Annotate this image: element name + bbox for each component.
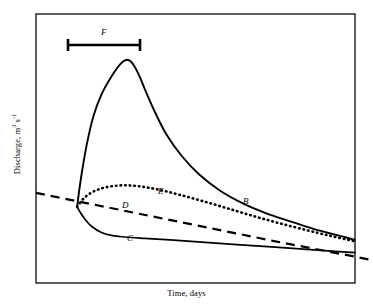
curve-label-b: B xyxy=(243,196,249,206)
duration-bar-label: F xyxy=(101,27,107,37)
y-axis-exponent-3: 3 xyxy=(11,125,17,128)
hydrograph-figure: Discharge, m3 s-1 Time, days F B C D E xyxy=(0,0,373,308)
y-axis-label-mid: s xyxy=(12,119,22,125)
y-axis-label: Discharge, m3 s-1 xyxy=(12,94,22,194)
plot-canvas xyxy=(0,0,373,308)
curve-label-c: C xyxy=(127,233,133,243)
x-axis-label: Time, days xyxy=(0,288,373,298)
y-axis-label-text: Discharge, m xyxy=(12,128,22,174)
curve-label-e: E xyxy=(158,186,164,196)
curve-label-d: D xyxy=(122,200,129,210)
figure-background xyxy=(0,0,373,308)
y-axis-exponent-minus1: -1 xyxy=(11,114,17,119)
